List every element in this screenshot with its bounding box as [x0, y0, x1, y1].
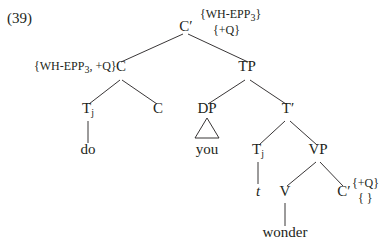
node-tj-upper: Tj: [82, 101, 94, 116]
node-t-bar: T′: [282, 101, 294, 116]
terminal-do: do: [81, 142, 96, 157]
terminal-you: you: [196, 142, 219, 157]
terminal-wonder: wonder: [263, 225, 308, 240]
node-tp: TP: [238, 59, 256, 74]
c-bar-lower-features-empty: { }: [358, 192, 373, 204]
tj-upper-label: T: [82, 100, 91, 116]
node-tj-lower: Tj: [252, 142, 264, 157]
tree-branches: [0, 0, 389, 240]
root-features-wh-epp: {WH-EPP3}: [200, 8, 261, 20]
node-dp: DP: [197, 101, 216, 116]
root-features-q: {+Q}: [213, 24, 240, 36]
tj-lower-subscript: j: [261, 148, 264, 159]
node-c-bar-lower: C′: [337, 184, 350, 199]
tj-lower-label: T: [252, 141, 261, 157]
node-c-bar-root: C′: [179, 19, 192, 34]
wh-epp-text: WH-EPP: [206, 7, 251, 21]
wh-epp-left-text: WH-EPP: [40, 59, 85, 73]
node-c-head: C: [116, 59, 126, 74]
tj-upper-subscript: j: [91, 107, 94, 118]
terminal-trace-t: t: [256, 184, 260, 199]
wh-epp-left-subscript: 3: [84, 64, 89, 75]
c-bar-lower-features-q: {+Q}: [352, 177, 379, 189]
node-v: V: [280, 184, 291, 199]
node-vp: VP: [308, 142, 327, 157]
c-head-features: {WH-EPP3, +Q}: [34, 60, 117, 72]
wh-epp-subscript: 3: [250, 12, 255, 23]
node-c-lower: C: [153, 101, 163, 116]
